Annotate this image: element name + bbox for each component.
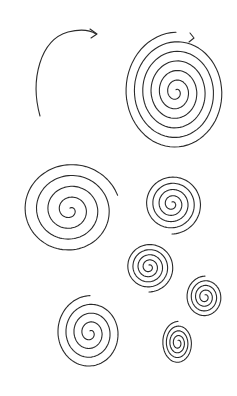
spiral-mid-left [25, 165, 118, 250]
arrow-arc [36, 30, 96, 116]
large-spiral-arrow [126, 32, 222, 147]
spiral-drawing [0, 0, 237, 396]
spiral-mid-right [147, 177, 201, 234]
spiral-center-small [128, 245, 173, 293]
arrowhead-icon [90, 29, 97, 38]
spiral-bottom-left [58, 296, 118, 366]
spirals-group [25, 32, 222, 366]
large-spiral-arrowhead-icon [189, 33, 194, 42]
spiral-bottom-right [163, 321, 192, 362]
spiral-right-small [187, 276, 221, 316]
